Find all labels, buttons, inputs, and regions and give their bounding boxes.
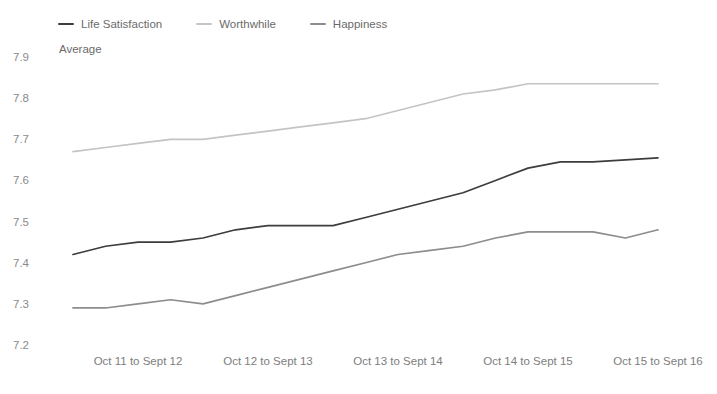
x-axis-tick: Oct 13 to Sept 14 xyxy=(353,355,443,367)
plot-area xyxy=(73,57,658,345)
series-line-worthwhile xyxy=(73,84,658,152)
legend-label-life-satisfaction: Life Satisfaction xyxy=(81,18,162,30)
legend-label-happiness: Happiness xyxy=(333,18,387,30)
y-axis-tick: 7.8 xyxy=(13,92,29,104)
x-axis-labels: Oct 11 to Sept 12Oct 12 to Sept 13Oct 13… xyxy=(73,355,658,375)
x-axis-tick: Oct 15 to Sept 16 xyxy=(613,355,703,367)
y-axis-tick: 7.2 xyxy=(13,339,29,351)
y-axis-labels: 7.97.87.77.67.57.47.37.2 xyxy=(0,0,73,394)
y-axis-tick: 7.4 xyxy=(13,257,29,269)
x-axis-tick: Oct 11 to Sept 12 xyxy=(94,355,183,367)
x-axis-tick: Oct 14 to Sept 15 xyxy=(483,355,573,367)
chart-legend: Life Satisfaction Worthwhile Happiness xyxy=(58,18,387,30)
legend-item-life-satisfaction[interactable]: Life Satisfaction xyxy=(58,18,162,30)
y-axis-tick: 7.9 xyxy=(13,51,29,63)
y-axis-tick: 7.6 xyxy=(13,174,29,186)
legend-swatch-happiness xyxy=(310,23,326,25)
legend-label-worthwhile: Worthwhile xyxy=(219,18,276,30)
legend-item-happiness[interactable]: Happiness xyxy=(310,18,387,30)
legend-item-worthwhile[interactable]: Worthwhile xyxy=(196,18,276,30)
series-line-life-satisfaction xyxy=(73,158,658,255)
y-axis-tick: 7.7 xyxy=(13,133,29,145)
y-axis-tick: 7.3 xyxy=(13,298,29,310)
plot-svg xyxy=(73,57,658,345)
line-chart: Life Satisfaction Worthwhile Happiness A… xyxy=(0,0,717,394)
x-axis-tick: Oct 12 to Sept 13 xyxy=(223,355,313,367)
legend-swatch-worthwhile xyxy=(196,23,212,25)
y-axis-tick: 7.5 xyxy=(13,216,29,228)
